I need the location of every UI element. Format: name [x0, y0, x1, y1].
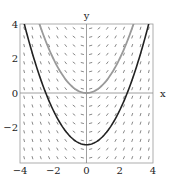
- slope-segment: [106, 87, 108, 90]
- slope-segment: [115, 113, 117, 116]
- slope-segment: [106, 70, 108, 73]
- x-axis-label: x: [160, 88, 166, 99]
- slope-segment: [73, 70, 76, 72]
- y-tick-label: 0: [12, 88, 18, 99]
- slope-segment: [24, 130, 25, 133]
- slope-segment: [48, 104, 49, 107]
- slope-segment: [89, 88, 92, 89]
- slope-segment: [57, 139, 59, 142]
- slope-segment: [81, 157, 84, 158]
- slope-segment: [106, 122, 108, 125]
- slope-segment: [24, 139, 25, 142]
- slope-segment: [115, 122, 117, 125]
- slope-segment: [89, 149, 92, 150]
- slope-segment: [132, 35, 133, 38]
- slope-segment: [98, 45, 101, 47]
- slope-segment: [140, 79, 141, 82]
- slope-segment: [81, 80, 84, 81]
- slope-segment: [32, 122, 33, 125]
- slope-segment: [73, 131, 76, 133]
- slope-segment: [40, 61, 41, 64]
- slope-segment: [148, 113, 149, 116]
- slope-segment: [57, 156, 59, 159]
- slope-segment: [73, 105, 76, 107]
- slope-segment: [57, 122, 59, 125]
- slope-segment: [24, 53, 25, 56]
- slope-segment: [98, 62, 101, 64]
- slope-segment: [89, 45, 92, 46]
- slope-segment: [140, 139, 141, 142]
- slope-segment: [89, 140, 92, 141]
- slope-segment: [57, 130, 59, 133]
- slope-segment: [32, 156, 33, 159]
- slope-segment: [40, 113, 41, 116]
- slope-segment: [81, 131, 84, 132]
- slope-segment: [32, 139, 33, 142]
- slope-segment: [123, 27, 124, 30]
- slope-segment: [115, 53, 117, 56]
- slope-segment: [73, 45, 76, 47]
- slope-segment: [65, 148, 67, 151]
- slope-segment: [57, 96, 59, 99]
- slope-segment: [40, 35, 41, 38]
- slope-segment: [65, 156, 67, 159]
- slope-segment: [140, 156, 141, 159]
- slope-segment: [148, 156, 149, 159]
- slope-segment: [65, 122, 67, 125]
- slope-segment: [32, 70, 33, 73]
- slope-segment: [48, 87, 49, 90]
- slope-segment: [89, 71, 92, 72]
- slope-segment: [73, 114, 76, 116]
- slope-segment: [123, 79, 124, 82]
- slope-segment: [123, 87, 124, 90]
- slope-segment: [132, 53, 133, 56]
- slope-segment: [32, 61, 33, 64]
- slope-segment: [148, 79, 149, 82]
- slope-segment: [24, 87, 25, 90]
- slope-segment: [123, 35, 124, 38]
- slope-segment: [57, 113, 59, 116]
- slope-segment: [40, 139, 41, 142]
- slope-segment: [132, 122, 133, 125]
- y-tick-label: −2: [3, 122, 18, 133]
- slope-segment: [89, 131, 92, 132]
- slope-segment: [40, 130, 41, 133]
- slope-segment: [81, 149, 84, 150]
- slope-segment: [40, 96, 41, 99]
- slope-segment: [73, 148, 76, 150]
- slope-segment: [24, 96, 25, 99]
- slope-segment: [24, 113, 25, 116]
- slope-segment: [98, 27, 101, 29]
- slope-segment: [24, 104, 25, 107]
- slope-segment: [57, 36, 59, 39]
- x-tick-label: 2: [117, 165, 123, 176]
- slope-segment: [123, 139, 124, 142]
- slope-segment: [115, 70, 117, 73]
- slope-segment: [132, 70, 133, 73]
- slope-segment: [32, 148, 33, 151]
- slope-segment: [148, 122, 149, 125]
- slope-segment: [106, 148, 108, 151]
- slope-segment: [65, 70, 67, 73]
- slope-segment: [98, 70, 101, 72]
- x-tick-label: −4: [13, 165, 28, 176]
- slope-segment: [81, 123, 84, 124]
- slope-segment: [106, 44, 108, 47]
- slope-segment: [115, 96, 117, 99]
- slope-segment: [132, 44, 133, 47]
- slope-segment: [98, 122, 101, 124]
- slope-segment: [65, 53, 67, 56]
- slope-segment: [106, 105, 108, 108]
- slope-segment: [89, 54, 92, 55]
- slope-segment: [48, 148, 49, 151]
- slope-segment: [132, 96, 133, 99]
- slope-segment: [132, 104, 133, 107]
- slope-segment: [89, 97, 92, 98]
- slope-segment: [132, 130, 133, 133]
- slope-segment: [132, 61, 133, 64]
- slope-segment: [132, 87, 133, 90]
- slope-segment: [123, 122, 124, 125]
- slope-segment: [148, 61, 149, 64]
- slope-segment: [89, 106, 92, 107]
- slope-segment: [106, 139, 108, 142]
